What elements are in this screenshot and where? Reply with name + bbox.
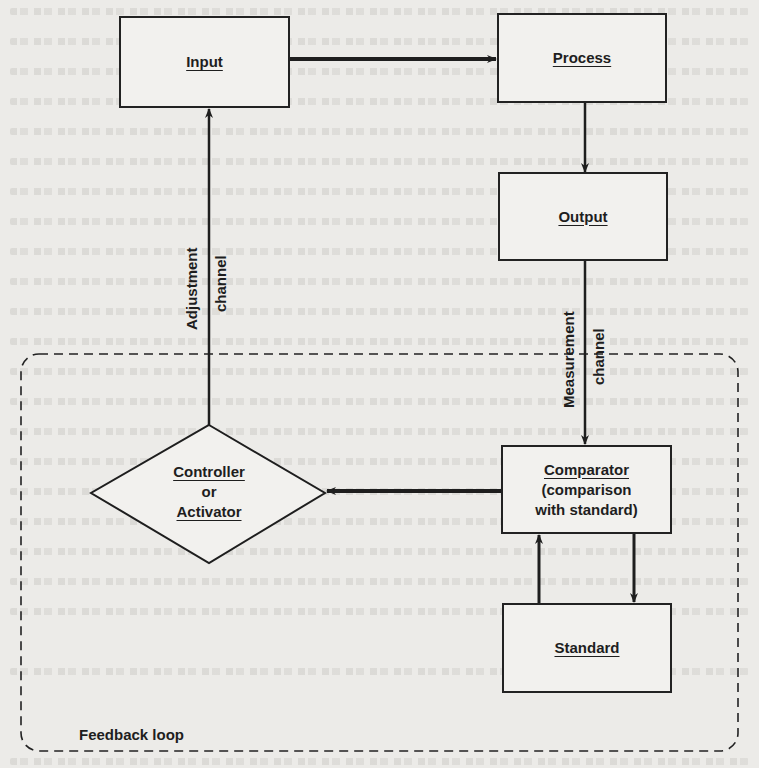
input-label: Input <box>186 52 223 72</box>
output-box: Output <box>498 172 668 261</box>
comparator-sub2: with standard) <box>535 500 638 520</box>
controller-or: or <box>139 482 279 502</box>
feedback-loop-label: Feedback loop <box>79 726 184 743</box>
activator-label: Activator <box>139 502 279 522</box>
input-box: Input <box>119 16 290 108</box>
output-label: Output <box>558 207 607 227</box>
adjustment-channel-label-2: channel <box>212 255 229 312</box>
standard-label: Standard <box>554 638 619 658</box>
comparator-label: Comparator <box>544 460 629 480</box>
measurement-channel-label-2: channel <box>590 328 607 385</box>
controller-label: Controller <box>139 462 279 482</box>
process-label: Process <box>553 48 611 68</box>
comparator-box: Comparator (comparison with standard) <box>501 445 672 534</box>
adjustment-channel-label-1: Adjustment <box>183 248 200 331</box>
standard-box: Standard <box>502 603 672 693</box>
comparator-sub1: (comparison <box>541 480 631 500</box>
measurement-channel-label-1: Measurement <box>560 311 577 408</box>
controller-text: Controller or Activator <box>139 462 279 522</box>
process-box: Process <box>497 13 667 103</box>
